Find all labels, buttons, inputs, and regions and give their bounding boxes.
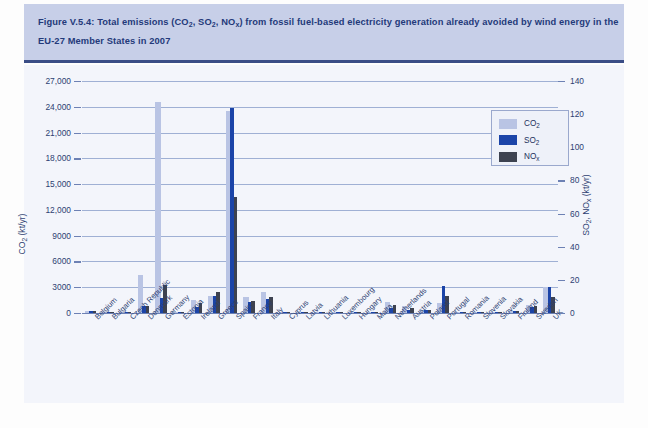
- y-left-title-unit: (kt/yr): [17, 214, 27, 238]
- y-tick-right: [558, 81, 565, 82]
- bar-cluster: [314, 81, 326, 313]
- y-right-title-sub-a: 2: [585, 220, 592, 224]
- bar-cluster: [138, 81, 150, 313]
- legend-label-so2: SO2: [524, 136, 539, 145]
- bar-nox: [234, 197, 237, 313]
- y-tick-left: [74, 81, 81, 82]
- figure-caption-band: Figure V.5.4: Total emissions (CO2, SO2,…: [24, 4, 624, 62]
- bar-cluster: [455, 81, 467, 313]
- legend-label-nox-main: NO: [524, 152, 536, 161]
- y-right-title-unit: (kt/yr): [581, 174, 591, 198]
- x-axis-labels: BelgiumBulgariaCzech RepublicDenmarkGerm…: [82, 315, 558, 385]
- legend-label-co2-sub: 2: [536, 122, 540, 129]
- bar-cluster: [385, 81, 397, 313]
- bar-cluster: [402, 81, 414, 313]
- bar-cluster: [473, 81, 485, 313]
- caption-text-1d: ) from fossil fuel-based electricity gen…: [239, 17, 618, 27]
- legend-item-co2: CO2: [499, 116, 563, 131]
- legend-swatch-co2-icon: [499, 119, 517, 129]
- y-tick-label-right: 60: [570, 209, 579, 219]
- figure-caption-line-1: Figure V.5.4: Total emissions (CO2, SO2,…: [38, 13, 610, 32]
- y-tick-label-right: 40: [570, 242, 579, 252]
- legend-label-co2: CO2: [524, 119, 540, 128]
- y-tick-label-left: 3000: [52, 282, 71, 292]
- legend-label-co2-main: CO: [524, 119, 536, 128]
- caption-text-1b: , SO: [193, 17, 212, 27]
- y-tick-label-left: 0: [66, 308, 71, 318]
- chart-legend: CO2 SO2 NOx: [491, 110, 569, 166]
- y-tick-left: [74, 236, 81, 237]
- y-tick-label-right: 120: [570, 109, 584, 119]
- bar-cluster: [437, 81, 449, 313]
- y-left-title-sub: 2: [21, 238, 28, 242]
- caption-underline-rule: [24, 60, 624, 63]
- bar-cluster: [85, 81, 97, 313]
- bar-cluster: [226, 81, 238, 313]
- y-tick-label-left: 9000: [52, 231, 71, 241]
- y-tick-left: [74, 313, 81, 314]
- bar-cluster: [279, 81, 291, 313]
- y-tick-left: [74, 287, 81, 288]
- legend-swatch-nox-icon: [499, 152, 517, 162]
- legend-label-so2-sub: 2: [536, 139, 540, 146]
- y-tick-label-right: 0: [570, 308, 575, 318]
- chart-panel: 030006000900012,00015,00018,00021,00024,…: [24, 65, 624, 403]
- bar-cluster: [102, 81, 114, 313]
- bar-cluster: [191, 81, 203, 313]
- legend-label-nox: NOx: [524, 152, 539, 161]
- y-tick-label-left: 24,000: [45, 102, 71, 112]
- bar-cluster: [173, 81, 185, 313]
- y-tick-left: [74, 133, 81, 134]
- legend-item-so2: SO2: [499, 133, 563, 148]
- figure-page: Figure V.5.4: Total emissions (CO2, SO2,…: [0, 0, 648, 428]
- y-tick-right: [558, 247, 565, 248]
- bar-cluster: [296, 81, 308, 313]
- y-tick-left: [74, 184, 81, 185]
- bar-cluster: [332, 81, 344, 313]
- caption-text-1a: Figure V.5.4: Total emissions (CO: [38, 17, 189, 27]
- y-tick-right: [558, 214, 565, 215]
- legend-swatch-so2-icon: [499, 135, 517, 145]
- caption-sub-so2: 2: [212, 21, 216, 28]
- figure-caption-line-2: EU-27 Member States in 2007: [38, 32, 610, 51]
- y-tick-label-left: 27,000: [45, 76, 71, 86]
- y-tick-label-right: 80: [570, 175, 579, 185]
- y-tick-left: [74, 158, 81, 159]
- y-tick-label-left: 6000: [52, 256, 71, 266]
- y-right-title-main-a: SO: [581, 223, 591, 235]
- y-tick-label-left: 12,000: [45, 205, 71, 215]
- y-tick-left: [74, 107, 81, 108]
- bar-cluster: [243, 81, 255, 313]
- caption-sub-co2: 2: [189, 21, 193, 28]
- caption-text-1c: , NO: [216, 17, 236, 27]
- y-tick-right: [558, 180, 565, 181]
- y-tick-right: [558, 280, 565, 281]
- bar-cluster: [208, 81, 220, 313]
- y-tick-label-left: 15,000: [45, 179, 71, 189]
- legend-item-nox: NOx: [499, 149, 563, 164]
- y-left-title-main: CO: [17, 242, 27, 255]
- y-tick-left: [74, 210, 81, 211]
- y-right-title-sep: , NO: [581, 202, 591, 220]
- legend-label-nox-sub: x: [536, 155, 539, 162]
- bar-cluster: [420, 81, 432, 313]
- y-tick-label-left: 18,000: [45, 153, 71, 163]
- caption-sub-nox: x: [235, 21, 239, 28]
- y-tick-label-right: 20: [570, 275, 579, 285]
- y-tick-label-right: 100: [570, 142, 584, 152]
- y-axis-right-title: SO2, NOx (kt/yr): [581, 174, 591, 235]
- y-tick-left: [74, 261, 81, 262]
- y-tick-label-right: 140: [570, 76, 584, 86]
- y-axis-left-title: CO2 (kt/yr): [17, 214, 27, 255]
- plot-area: 030006000900012,00015,00018,00021,00024,…: [82, 81, 558, 313]
- bar-cluster: [349, 81, 361, 313]
- bar-cluster: [367, 81, 379, 313]
- y-right-title-sub-b: x: [585, 199, 592, 202]
- legend-label-so2-main: SO: [524, 136, 536, 145]
- y-tick-label-left: 21,000: [45, 128, 71, 138]
- bar-cluster: [120, 81, 132, 313]
- bar-cluster: [261, 81, 273, 313]
